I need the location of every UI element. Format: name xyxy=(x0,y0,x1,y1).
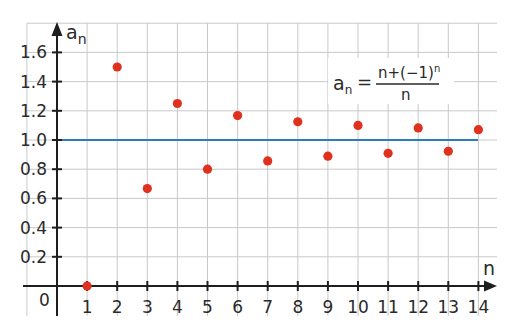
data-point xyxy=(444,147,453,156)
x-tick-label: 1 xyxy=(82,297,93,317)
y-tick-label: 0.2 xyxy=(20,247,47,267)
sequence-chart: 1234567891011121314 n 0.20.40.60.81.01.2… xyxy=(0,0,508,336)
x-tick-label: 3 xyxy=(142,297,153,317)
x-tick-label: 7 xyxy=(262,297,273,317)
x-tick-label: 6 xyxy=(232,297,243,317)
x-tick-label: 11 xyxy=(377,297,399,317)
x-axis: 1234567891011121314 n xyxy=(23,257,497,317)
x-tick-label: 2 xyxy=(112,297,123,317)
y-tick-label: 1.4 xyxy=(20,72,47,92)
x-tick-label: 4 xyxy=(172,297,183,317)
svg-text:n: n xyxy=(401,86,411,104)
x-tick-label: 14 xyxy=(468,297,490,317)
data-point xyxy=(113,62,122,71)
data-point xyxy=(323,152,332,161)
svg-text:=: = xyxy=(357,71,372,92)
x-tick-label: 8 xyxy=(292,297,303,317)
data-point xyxy=(384,149,393,158)
data-point xyxy=(173,99,182,108)
data-point xyxy=(263,156,272,165)
data-point xyxy=(203,165,212,174)
y-tick-label: 1.6 xyxy=(20,42,47,62)
y-tick-label: 0.6 xyxy=(20,188,47,208)
x-axis-label: n xyxy=(483,257,495,279)
x-tick-label: 13 xyxy=(437,297,459,317)
y-tick-label: 0.4 xyxy=(20,218,47,238)
y-tick-label: 1.2 xyxy=(20,101,47,121)
data-point xyxy=(293,117,302,126)
y-axis-label: an xyxy=(66,21,87,47)
x-axis-arrow-icon xyxy=(484,281,497,292)
data-point xyxy=(233,111,242,120)
y-axis: 0.20.40.60.81.01.21.41.6 an 0 xyxy=(20,21,87,316)
data-point xyxy=(474,125,483,134)
data-point xyxy=(83,281,92,290)
x-tick-label: 12 xyxy=(407,297,429,317)
data-point xyxy=(414,123,423,132)
origin-label: 0 xyxy=(39,290,50,310)
x-tick-label: 10 xyxy=(347,297,369,317)
data-point xyxy=(143,184,152,193)
data-point xyxy=(353,121,362,130)
formula: an = n+(−1)n n xyxy=(328,58,454,104)
y-tick-label: 0.8 xyxy=(20,159,47,179)
svg-text:n+(−1)n: n+(−1)n xyxy=(378,63,440,82)
x-tick-label: 5 xyxy=(202,297,213,317)
y-axis-arrow-icon xyxy=(52,22,63,36)
y-tick-label: 1.0 xyxy=(20,130,47,150)
x-tick-label: 9 xyxy=(322,297,333,317)
